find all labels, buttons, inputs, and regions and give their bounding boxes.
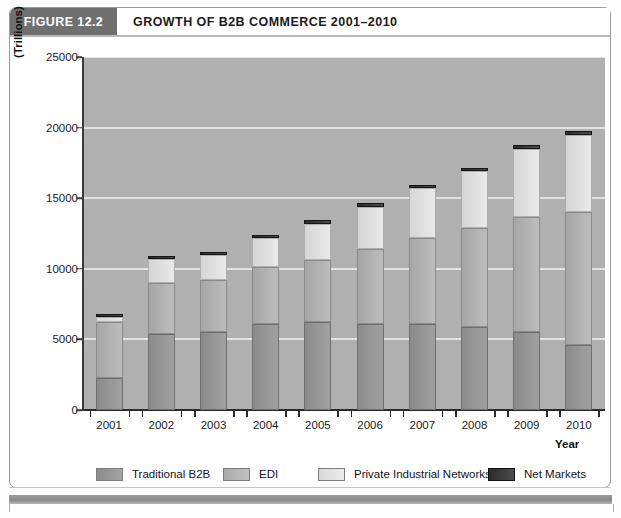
x-tick-label: 2004	[236, 419, 296, 431]
x-tick-label: 2002	[131, 419, 191, 431]
bar-segment-edi[interactable]	[148, 283, 175, 334]
y-tick-label: 20000	[4, 122, 78, 134]
bar-segment-edi[interactable]	[96, 322, 123, 377]
x-tick-label: 2006	[340, 419, 400, 431]
bar-segment-traditional-b2b[interactable]	[200, 332, 227, 410]
x-tick-mark	[559, 410, 561, 417]
x-axis-title: Year	[555, 438, 579, 450]
bar-segment-traditional-b2b[interactable]	[252, 324, 279, 410]
x-tick-mark	[598, 410, 600, 417]
bar-group[interactable]	[461, 57, 488, 410]
bar-segment-edi[interactable]	[513, 217, 540, 333]
bar-segment-net-markets[interactable]	[461, 168, 488, 172]
bar-segment-traditional-b2b[interactable]	[409, 324, 436, 410]
bar-segment-net-markets[interactable]	[357, 203, 384, 207]
bar-segment-edi[interactable]	[357, 249, 384, 324]
bar-segment-edi[interactable]	[252, 267, 279, 323]
bar-segment-edi[interactable]	[304, 260, 331, 322]
bar-segment-private-industrial-networks[interactable]	[200, 255, 227, 280]
bar-segment-private-industrial-networks[interactable]	[513, 149, 540, 217]
bar-group[interactable]	[513, 57, 540, 410]
x-tick-mark	[337, 410, 339, 417]
legend-item-private-industrial-networks[interactable]: Private Industrial Networks	[318, 463, 491, 485]
bar-group[interactable]	[148, 57, 175, 410]
legend-label: Private Industrial Networks	[354, 468, 491, 480]
x-tick-mark	[90, 410, 92, 417]
x-tick-mark	[442, 410, 444, 417]
bar-segment-private-industrial-networks[interactable]	[148, 259, 175, 283]
x-tick-mark	[194, 410, 196, 417]
bar-segment-net-markets[interactable]	[513, 145, 540, 149]
bar-segment-net-markets[interactable]	[304, 220, 331, 224]
x-tick-label: 2010	[549, 419, 609, 431]
legend-item-traditional-b2b[interactable]: Traditional B2B	[96, 463, 210, 485]
bar-segment-private-industrial-networks[interactable]	[304, 224, 331, 261]
legend-swatch-net-markets	[488, 468, 515, 481]
bar-segment-traditional-b2b[interactable]	[357, 324, 384, 410]
footer-bar	[9, 495, 612, 504]
bar-segment-edi[interactable]	[461, 228, 488, 327]
bar-segment-net-markets[interactable]	[565, 131, 592, 135]
legend-swatch-edi	[223, 468, 250, 481]
y-axis-tick-labels: 0500010000150002000025000	[0, 0, 78, 470]
bar-segment-edi[interactable]	[409, 238, 436, 324]
bar-segment-private-industrial-networks[interactable]	[461, 171, 488, 227]
legend-label: Traditional B2B	[132, 468, 210, 480]
x-tick-mark	[129, 410, 131, 417]
bar-segment-traditional-b2b[interactable]	[461, 327, 488, 410]
bar-group[interactable]	[409, 57, 436, 410]
bar-segment-traditional-b2b[interactable]	[565, 345, 592, 410]
bar-segment-edi[interactable]	[200, 280, 227, 332]
bar-segment-traditional-b2b[interactable]	[96, 378, 123, 410]
bar-group[interactable]	[304, 57, 331, 410]
bar-segment-edi[interactable]	[565, 212, 592, 345]
bar-segment-net-markets[interactable]	[409, 185, 436, 189]
bar-segment-net-markets[interactable]	[148, 256, 175, 259]
bar-group[interactable]	[252, 57, 279, 410]
y-tick-mark	[76, 339, 82, 341]
bar-segment-private-industrial-networks[interactable]	[409, 188, 436, 237]
y-tick-mark	[76, 409, 82, 411]
legend-item-edi[interactable]: EDI	[223, 463, 278, 485]
y-tick-mark	[76, 127, 82, 129]
bar-segment-traditional-b2b[interactable]	[513, 332, 540, 410]
y-tick-mark	[76, 56, 82, 58]
bar-group[interactable]	[565, 57, 592, 410]
x-tick-mark	[233, 410, 235, 417]
bar-segment-private-industrial-networks[interactable]	[96, 317, 123, 323]
bar-segment-private-industrial-networks[interactable]	[565, 135, 592, 213]
x-tick-mark	[494, 410, 496, 417]
x-tick-mark	[298, 410, 300, 417]
x-tick-mark	[351, 410, 353, 417]
bar-group[interactable]	[200, 57, 227, 410]
x-axis-ticks	[83, 410, 605, 417]
x-tick-mark	[403, 410, 405, 417]
bar-segment-traditional-b2b[interactable]	[148, 334, 175, 410]
x-tick-label: 2008	[445, 419, 505, 431]
y-tick-mark	[76, 268, 82, 270]
x-tick-mark	[285, 410, 287, 417]
y-tick-label: 15000	[4, 192, 78, 204]
x-tick-mark	[546, 410, 548, 417]
bar-segment-net-markets[interactable]	[200, 252, 227, 255]
bar-segment-traditional-b2b[interactable]	[304, 322, 331, 410]
x-tick-mark	[246, 410, 248, 417]
legend-swatch-traditional-b2b	[96, 468, 123, 481]
bar-segment-net-markets[interactable]	[96, 314, 123, 317]
footer-edge	[9, 504, 614, 512]
x-tick-mark	[390, 410, 392, 417]
x-tick-label: 2009	[497, 419, 557, 431]
legend-item-net-markets[interactable]: Net Markets	[488, 463, 586, 485]
legend-divider	[10, 487, 610, 488]
bar-group[interactable]	[96, 57, 123, 410]
figure-header: FIGURE 12.2 GROWTH OF B2B COMMERCE 2001–…	[10, 8, 610, 35]
bar-segment-private-industrial-networks[interactable]	[357, 207, 384, 249]
bar-group[interactable]	[357, 57, 384, 410]
legend-label: Net Markets	[524, 468, 586, 480]
bar-segment-net-markets[interactable]	[252, 235, 279, 238]
y-tick-label: 25000	[4, 51, 78, 63]
bar-segment-private-industrial-networks[interactable]	[252, 238, 279, 268]
x-tick-mark	[181, 410, 183, 417]
x-tick-label: 2007	[392, 419, 452, 431]
bar-series-container	[83, 57, 605, 410]
